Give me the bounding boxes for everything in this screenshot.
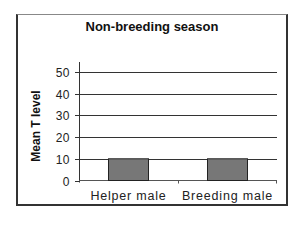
y-tick-label: 0 [63, 175, 70, 189]
y-tick-label: 30 [56, 109, 70, 123]
y-tick-label: 50 [56, 66, 70, 80]
y-tick-label: 40 [56, 88, 70, 102]
bar-helper-male [109, 159, 149, 181]
x-category-label: Breeding male [182, 189, 273, 203]
plot-area: 01020304050Helper maleBreeding male [0, 0, 300, 228]
bar-breeding-male [208, 159, 248, 181]
y-tick-label: 10 [56, 153, 70, 167]
y-tick-label: 20 [56, 131, 70, 145]
x-category-label: Helper male [90, 189, 166, 203]
